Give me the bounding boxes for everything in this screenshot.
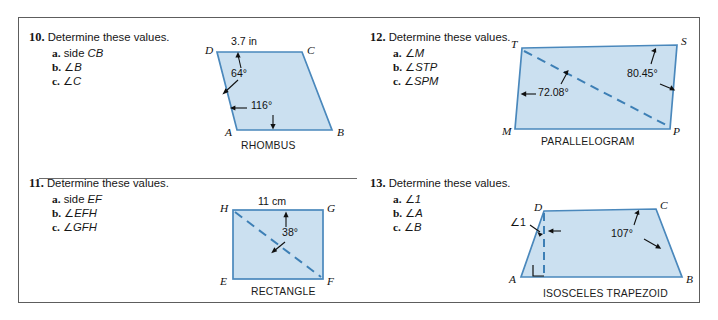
problem-11-heading: Determine these values.: [47, 177, 169, 189]
item-text: side: [64, 47, 88, 59]
item-label: c.: [52, 221, 60, 233]
vertex-label-S: S: [681, 35, 687, 47]
item-italic: CB: [88, 47, 104, 59]
item-text: ∠: [405, 193, 415, 205]
rhombus-shape: [217, 52, 332, 130]
item-label: b.: [393, 207, 402, 219]
trapezoid-figure: D C A B ∠1 107° ISOSCELES TRAPEZOID: [508, 199, 694, 289]
item-italic: STP: [415, 61, 437, 73]
item-italic: B: [414, 221, 422, 233]
problem-10-item-b: b. ∠B: [52, 61, 82, 74]
problem-12-item-b: b. ∠STP: [393, 61, 437, 74]
item-text: ∠: [404, 75, 414, 87]
problem-13: 13. Determine these values. a. ∠1 b. ∠A …: [360, 161, 701, 304]
angle-107-label: 107°: [611, 227, 633, 239]
problem-12-item-a: a. ∠M: [393, 47, 424, 60]
vertex-label-E: E: [220, 275, 227, 287]
side-length-label: 11 cm: [258, 195, 286, 207]
problem-13-item-c: c. ∠B: [393, 221, 422, 234]
problem-12-heading: Determine these values.: [389, 31, 511, 43]
problem-11: 11. Determine these values. a. side EF b…: [19, 161, 360, 304]
problem-12: 12. Determine these values. a. ∠M b. ∠ST…: [360, 18, 701, 161]
vertex-label-B: B: [686, 273, 693, 285]
item-text: ∠: [405, 47, 415, 59]
item-text: ∠: [63, 75, 73, 87]
vertex-label-D: D: [205, 44, 213, 56]
vertex-label-A: A: [225, 126, 232, 138]
vertex-label-T: T: [511, 38, 517, 50]
trapezoid-caption: ISOSCELES TRAPEZOID: [543, 288, 668, 299]
parallelogram-svg: [508, 40, 694, 136]
problem-12-number: 12.: [370, 30, 386, 44]
problem-10-item-a: a. side CB: [52, 47, 103, 59]
item-text: ∠: [404, 221, 414, 233]
problem-13-number: 13.: [370, 176, 386, 190]
angle-72-label: 72.08°: [538, 86, 569, 98]
angle-38-label: 38°: [282, 226, 298, 238]
item-label: a.: [52, 193, 61, 205]
rectangle-svg: [209, 198, 341, 286]
trapezoid-shape: [521, 209, 682, 277]
item-label: a.: [393, 193, 402, 205]
item-italic: EF: [88, 193, 102, 205]
rectangle-caption: RECTANGLE: [251, 286, 316, 297]
problem-11-item-a: a. side EF: [52, 193, 102, 205]
problem-11-item-c: c. ∠GFH: [52, 221, 97, 234]
item-italic: M: [415, 47, 424, 59]
vertex-label-G: G: [327, 202, 335, 214]
problem-12-prompt: 12. Determine these values.: [370, 31, 510, 44]
rectangle-figure: H G E F 11 cm 38° RECTANGLE: [209, 198, 341, 286]
problem-13-prompt: 13. Determine these values.: [370, 177, 510, 190]
parallelogram-figure: T S M P 72.08° 80.45° PARALLELOGRAM: [508, 40, 694, 136]
vertex-label-M: M: [502, 125, 512, 137]
problem-13-item-b: b. ∠A: [393, 207, 423, 220]
vertex-label-F: F: [327, 275, 334, 287]
problem-11-number: 11.: [29, 176, 44, 190]
item-italic: SPM: [414, 75, 438, 87]
angle-64-label: 64°: [231, 67, 247, 79]
worksheet-frame: 10. Determine these values. a. side CB b…: [18, 17, 700, 303]
item-text: ∠: [64, 61, 74, 73]
item-label: c.: [52, 75, 60, 87]
item-label: c.: [393, 221, 401, 233]
problem-13-heading: Determine these values.: [389, 177, 511, 189]
problem-11-item-b: b. ∠EFH: [52, 207, 97, 220]
problem-12-item-c: c. ∠SPM: [393, 75, 439, 88]
item-italic: C: [73, 75, 81, 87]
item-label: b.: [52, 207, 61, 219]
item-italic: GFH: [73, 221, 97, 233]
angle-1-label: ∠1: [510, 216, 526, 228]
problem-10-number: 10.: [29, 30, 45, 44]
item-italic: EFH: [74, 207, 97, 219]
problem-11-prompt: 11. Determine these values.: [29, 177, 169, 190]
item-label: b.: [52, 61, 61, 73]
vertex-label-B: B: [337, 126, 344, 138]
vertex-label-D: D: [534, 201, 542, 213]
problem-10: 10. Determine these values. a. side CB b…: [19, 18, 360, 161]
item-text: ∠: [64, 207, 74, 219]
problem-10-heading: Determine these values.: [48, 31, 170, 43]
item-italic: A: [415, 207, 423, 219]
item-italic: 1: [415, 193, 421, 205]
rhombus-figure: D C A B 3.7 in 64° 116° RHOMBUS: [187, 36, 359, 140]
item-text: ∠: [405, 207, 415, 219]
item-label: b.: [393, 61, 402, 73]
vertex-label-P: P: [673, 125, 680, 137]
item-text: ∠: [63, 221, 73, 233]
problem-10-prompt: 10. Determine these values.: [29, 31, 169, 44]
angle-116-label: 116°: [251, 99, 272, 111]
vertex-label-A: A: [509, 273, 516, 285]
item-label: c.: [393, 75, 401, 87]
side-length-label: 3.7 in: [231, 35, 257, 47]
problem-13-item-a: a. ∠1: [393, 193, 421, 206]
angle-80-label: 80.45°: [627, 67, 658, 79]
vertex-label-H: H: [220, 202, 228, 214]
rhombus-caption: RHOMBUS: [241, 140, 296, 151]
item-text: ∠: [405, 61, 415, 73]
item-label: a.: [393, 47, 402, 59]
item-italic: B: [74, 61, 82, 73]
item-label: a.: [52, 47, 61, 59]
item-text: side: [64, 193, 88, 205]
vertex-label-C: C: [660, 199, 668, 211]
parallelogram-caption: PARALLELOGRAM: [541, 136, 635, 147]
